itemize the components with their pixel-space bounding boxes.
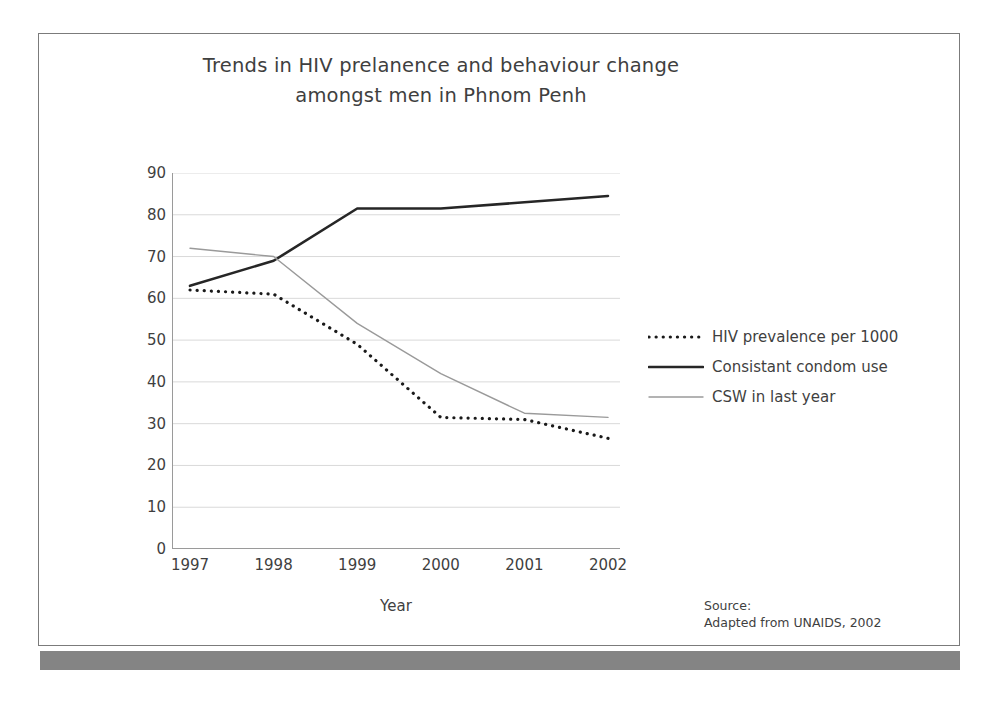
y-axis-tick-label: 90 (126, 164, 166, 182)
x-axis-tick-label: 2001 (489, 556, 559, 574)
x-axis-title: Year (172, 597, 620, 615)
chart-title: Trends in HIV prelanence and behaviour c… (121, 51, 761, 111)
legend-item-label: Consistant condom use (712, 358, 888, 376)
y-axis-tick-label: 40 (126, 373, 166, 391)
legend-item[interactable]: Consistant condom use (648, 352, 948, 382)
x-axis-tick-label: 1998 (239, 556, 309, 574)
gridlines (172, 173, 620, 507)
legend-item[interactable]: CSW in last year (648, 382, 948, 412)
plot-area (172, 173, 620, 549)
y-axis-tick-labels: 0102030405060708090 (120, 173, 166, 549)
legend-item-label: HIV prevalence per 1000 (712, 328, 898, 346)
slide-bottom-bar (40, 651, 960, 670)
y-axis-tick-label: 70 (126, 248, 166, 266)
y-axis-tick-label: 60 (126, 289, 166, 307)
series-line-0 (190, 290, 608, 438)
legend-line-swatch-icon (648, 361, 704, 373)
chart-title-line-2: amongst men in Phnom Penh (121, 81, 761, 111)
source-note: Source: Adapted from UNAIDS, 2002 (704, 597, 881, 631)
chart-legend: HIV prevalence per 1000Consistant condom… (648, 322, 948, 412)
y-axis-tick-label: 50 (126, 331, 166, 349)
series-line-2 (190, 248, 608, 417)
y-axis-tick-label: 10 (126, 498, 166, 516)
x-axis-tick-label: 1997 (155, 556, 225, 574)
legend-line-swatch-icon (648, 331, 704, 343)
legend-item-label: CSW in last year (712, 388, 835, 406)
axis-ticks (172, 173, 620, 549)
y-axis-tick-label: 80 (126, 206, 166, 224)
line-chart-canvas (172, 173, 620, 549)
x-axis-tick-label: 1999 (322, 556, 392, 574)
x-axis-tick-label: 2002 (573, 556, 643, 574)
legend-item[interactable]: HIV prevalence per 1000 (648, 322, 948, 352)
source-label: Source: (704, 597, 881, 614)
series-line-1 (190, 196, 608, 286)
x-axis-tick-labels: 199719981999200020012002 (172, 556, 620, 580)
y-axis-tick-label: 30 (126, 415, 166, 433)
source-text: Adapted from UNAIDS, 2002 (704, 614, 881, 631)
legend-line-swatch-icon (648, 391, 704, 403)
data-series-layer (190, 196, 608, 438)
chart-title-line-1: Trends in HIV prelanence and behaviour c… (121, 51, 761, 81)
y-axis-tick-label: 20 (126, 456, 166, 474)
axis-lines (172, 173, 620, 549)
x-axis-tick-label: 2000 (406, 556, 476, 574)
